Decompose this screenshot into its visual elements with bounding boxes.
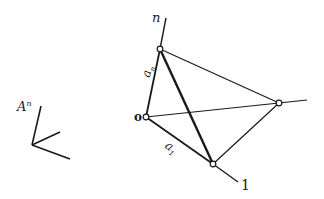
edge-top-right xyxy=(160,49,279,103)
axis-right xyxy=(279,100,307,103)
frame-label-sup: n xyxy=(26,99,31,108)
vertex-origin xyxy=(143,114,149,120)
diagram-canvas xyxy=(0,0,324,199)
axis-1 xyxy=(213,164,238,182)
vertex-bottom xyxy=(210,161,216,167)
frame-label: An xyxy=(17,100,32,113)
label-origin: o xyxy=(134,111,142,123)
axis-n xyxy=(160,18,166,49)
vertex-top xyxy=(157,46,163,52)
edge-origin-right xyxy=(146,103,279,117)
label-axis-1: 1 xyxy=(241,178,250,192)
frame-label-base: A xyxy=(17,99,26,114)
edge-an xyxy=(146,49,160,117)
frame-axis-up xyxy=(32,106,41,145)
frame-axis-mid xyxy=(32,132,60,145)
small-coordinate-frame xyxy=(32,106,70,159)
frame-axis-low xyxy=(32,145,70,159)
vertex-right xyxy=(276,100,282,106)
label-axis-n: n xyxy=(152,11,160,24)
edge-bottom-right xyxy=(213,103,279,164)
